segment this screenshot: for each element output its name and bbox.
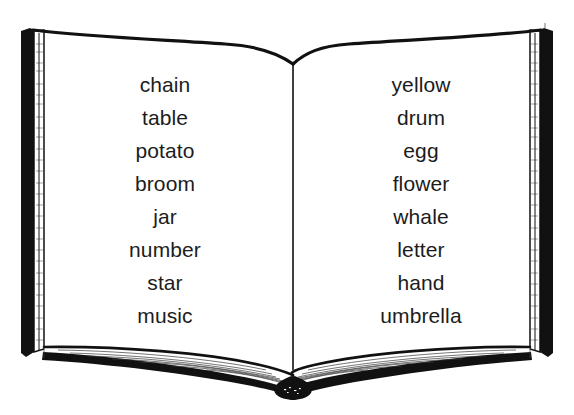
- left-page-word-list: chain table potato broom jar number star…: [75, 68, 255, 332]
- list-item: potato: [136, 134, 195, 167]
- spine-foot-knot: [274, 376, 311, 400]
- list-item: star: [147, 266, 182, 299]
- list-item: number: [129, 233, 201, 266]
- left-cover-edge: [21, 28, 44, 357]
- list-item: chain: [140, 68, 191, 101]
- list-item: whale: [393, 200, 448, 233]
- book-spine-foot: [274, 376, 311, 400]
- open-book-illustration: chain table potato broom jar number star…: [0, 0, 574, 415]
- right-page-word-list: yellow drum egg flower whale letter hand…: [331, 68, 511, 332]
- list-item: music: [137, 299, 192, 332]
- list-item: umbrella: [380, 299, 461, 332]
- list-item: drum: [397, 101, 445, 134]
- list-item: flower: [393, 167, 450, 200]
- list-item: letter: [397, 233, 444, 266]
- list-item: jar: [153, 200, 177, 233]
- list-item: hand: [397, 266, 444, 299]
- left-cover-board: [21, 28, 34, 357]
- list-item: broom: [135, 167, 195, 200]
- list-item: yellow: [392, 68, 451, 101]
- right-cover-edge: [530, 28, 553, 357]
- right-cover-board: [540, 28, 553, 357]
- list-item: egg: [403, 134, 438, 167]
- list-item: table: [142, 101, 188, 134]
